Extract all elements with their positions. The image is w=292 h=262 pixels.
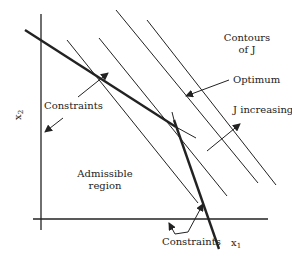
constraints-top-arrow-2 — [45, 118, 63, 132]
j-increasing-label: J increasing — [233, 104, 292, 116]
optimum-label: Optimum — [233, 74, 280, 86]
constraints-top-label: Constraints — [44, 100, 103, 112]
x2-axis-label: x2 — [12, 110, 27, 120]
constraint-line-2-ext — [172, 112, 174, 120]
admissible-region-label: Admissible region — [70, 168, 140, 192]
constraints-bottom-arrow-1 — [169, 223, 188, 234]
constraint-line-2 — [174, 120, 219, 249]
constraints-bottom-label: Constraints — [162, 236, 221, 248]
j-increasing-arrow — [207, 124, 240, 151]
constraints-bottom-arrow-2 — [188, 204, 203, 232]
optimum-arrow — [186, 80, 229, 96]
contours-label: Contours of J — [212, 32, 282, 56]
optimization-diagram: Contours of J Optimum J increasing Const… — [0, 0, 292, 262]
x1-axis-label: x1 — [231, 237, 241, 252]
